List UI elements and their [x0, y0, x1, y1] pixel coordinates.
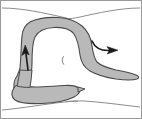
frame-right-edge [141, 0, 142, 119]
frame-bottom-edge [0, 118, 142, 119]
frame-top-edge [0, 0, 142, 1]
tube-neck-connector [17, 70, 32, 87]
diagram-canvas [0, 0, 142, 119]
figure-container: Grayscale line drawing of a looping tubu… [0, 0, 142, 119]
frame-left-edge [0, 0, 1, 119]
